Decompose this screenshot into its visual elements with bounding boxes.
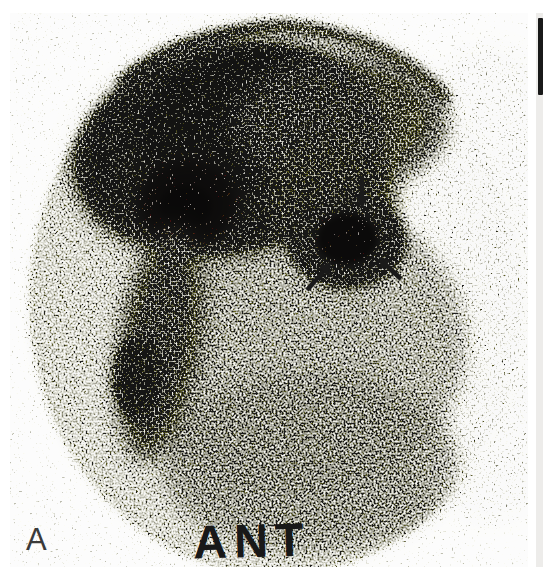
figure-page: A ANT [0,0,543,574]
adjacent-panel-mark [538,18,543,95]
scintigram-panel: A ANT [10,13,528,567]
scintigram-image [10,13,528,567]
panel-label: A [26,524,47,555]
adjacent-panel-edge [536,13,543,567]
orientation-label: ANT [192,515,311,565]
